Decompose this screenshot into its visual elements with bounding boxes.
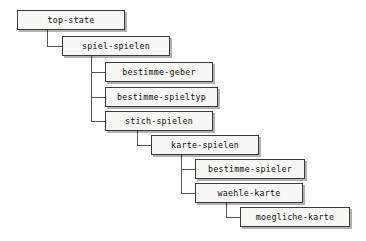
connector-stich-spielen-to-karte-spielen (137, 131, 151, 145)
node-karte-spielen[interactable]: karte-spielen (151, 135, 259, 155)
connector-top-state-to-spiel-spielen (47, 30, 62, 46)
node-waehle-karte[interactable]: waehle-karte (195, 183, 303, 203)
node-label-bestimme-geber: bestimme-geber (122, 68, 195, 76)
node-label-bestimme-spieltyp: bestimme-spieltyp (117, 93, 206, 101)
node-label-bestimme-spieler: bestimme-spieler (208, 165, 292, 173)
node-top-state[interactable]: top-state (17, 10, 125, 30)
node-stich-spielen[interactable]: stich-spielen (105, 111, 213, 131)
node-label-stich-spielen: stich-spielen (125, 117, 193, 125)
node-bestimme-spieler[interactable]: bestimme-spieler (195, 159, 305, 179)
node-spiel-spielen[interactable]: spiel-spielen (62, 36, 170, 56)
connector-karte-spielen-to-bestimme-spieler (181, 155, 195, 169)
node-bestimme-spieltyp[interactable]: bestimme-spieltyp (105, 87, 218, 107)
connector-karte-spielen-to-waehle-karte (181, 155, 195, 193)
connector-waehle-karte-to-moegliche-karte (226, 203, 240, 217)
state-hierarchy-diagram: top-statespiel-spielenbestimme-geberbest… (0, 0, 366, 241)
node-label-waehle-karte: waehle-karte (218, 189, 281, 197)
node-moegliche-karte[interactable]: moegliche-karte (240, 207, 350, 227)
node-label-spiel-spielen: spiel-spielen (82, 42, 150, 50)
connector-spiel-spielen-to-bestimme-spieltyp (91, 56, 105, 97)
node-label-karte-spielen: karte-spielen (171, 141, 239, 149)
node-label-top-state: top-state (47, 16, 94, 24)
node-bestimme-geber[interactable]: bestimme-geber (105, 62, 213, 82)
connector-spiel-spielen-to-stich-spielen (91, 56, 105, 121)
connector-spiel-spielen-to-bestimme-geber (91, 56, 105, 72)
node-label-moegliche-karte: moegliche-karte (256, 213, 335, 221)
